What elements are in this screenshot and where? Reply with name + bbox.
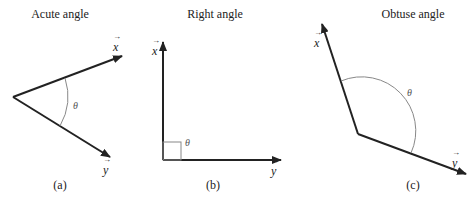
panel-a-caption: (a)	[53, 178, 66, 193]
panel-c-y-label: y	[452, 156, 457, 171]
panel-b-y-label: y	[271, 164, 276, 179]
right-angle-figure	[163, 42, 281, 160]
panel-b-title: Right angle	[187, 7, 243, 22]
panel-c-title: Obtuse angle	[382, 7, 445, 22]
acute-angle-figure	[13, 56, 122, 157]
panel-c-caption: (c)	[406, 178, 419, 193]
obtuse-angle-figure	[322, 24, 466, 174]
panel-a-y-label: y	[103, 163, 108, 178]
panel-c-theta: θ	[407, 87, 412, 98]
panel-b-theta: θ	[185, 137, 190, 148]
panel-c-x-label: x	[314, 36, 319, 51]
panel-a-theta: θ	[73, 100, 78, 111]
angle-diagrams	[0, 0, 476, 202]
panel-a-title: Acute angle	[31, 7, 89, 22]
panel-b-x-label: x	[152, 44, 157, 59]
panel-b-caption: (b)	[206, 178, 220, 193]
panel-a-x-label: x	[113, 40, 118, 55]
